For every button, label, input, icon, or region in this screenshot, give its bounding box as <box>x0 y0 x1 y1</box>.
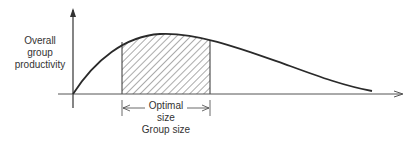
y-axis-arrow-icon <box>70 8 76 17</box>
optimal-size-label: Optimal size <box>140 100 192 124</box>
x-axis-label: Group size <box>130 124 202 136</box>
y-label-line-1: Overall <box>10 35 70 47</box>
y-label-line-2: group <box>10 47 70 59</box>
optimal-label-line-1: Optimal <box>140 100 192 112</box>
optimal-label-line-2: size <box>140 112 192 124</box>
productivity-curve <box>73 34 372 94</box>
productivity-diagram: Overall group productivity Optimal size … <box>0 0 416 141</box>
y-axis-label: Overall group productivity <box>10 35 70 71</box>
optimal-region <box>122 20 210 94</box>
y-label-line-3: productivity <box>10 59 70 71</box>
